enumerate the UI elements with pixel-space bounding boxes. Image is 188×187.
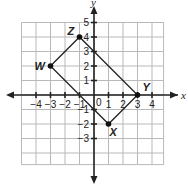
origin-label: 0 (96, 97, 102, 108)
y-tick-label: 4 (83, 32, 89, 43)
grid (22, 23, 164, 165)
y-tick-label: −2 (78, 119, 90, 130)
y-tick-label: 5 (83, 17, 89, 28)
y-axis-label: y (90, 0, 96, 8)
x-tick-label: −2 (59, 99, 71, 110)
point-y (135, 92, 141, 98)
y-arrow-down-icon (91, 176, 98, 184)
point-z (77, 34, 83, 40)
x-tick-label: 2 (120, 99, 126, 110)
x-arrow-left-icon (6, 92, 14, 99)
x-tick-label: 3 (135, 99, 141, 110)
x-axis-label: x (180, 89, 186, 101)
y-tick-label: 1 (83, 75, 89, 86)
point-label-x: X (109, 126, 118, 138)
points: ZWXY (35, 25, 152, 138)
point-label-w: W (35, 60, 47, 72)
x-tick-label: 4 (149, 99, 155, 110)
coordinate-plane: xy −4−3−2−1123454321−1−2−30 ZWXY (0, 0, 188, 187)
point-w (48, 63, 54, 69)
point-label-y: Y (143, 81, 152, 93)
x-tick-label: 1 (106, 99, 112, 110)
y-tick-label: −3 (78, 133, 90, 144)
y-tick-label: 3 (83, 46, 89, 57)
x-tick-label: −4 (30, 99, 42, 110)
point-label-z: Z (67, 25, 76, 37)
x-arrow-right-icon (170, 92, 178, 99)
y-tick-label: 2 (83, 61, 89, 72)
axes: xy (6, 0, 186, 184)
x-tick-label: −3 (45, 99, 57, 110)
y-tick-label: −1 (78, 104, 90, 115)
